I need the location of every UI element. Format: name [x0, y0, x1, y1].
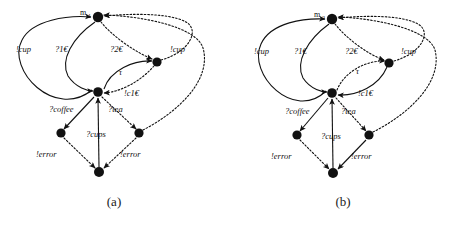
node-bottom	[328, 168, 338, 178]
label-start-state-sub-a: 1	[88, 13, 91, 19]
label-start-state-a: m	[80, 8, 87, 17]
edge-label-cups: ?cups	[321, 131, 342, 141]
edge-label-coffee: ?coffee	[49, 104, 74, 114]
graph-a: m 1 !cup ?1€ ?2€ !cup τ !c1€ ?coffee ?te…	[0, 0, 228, 200]
edge-coin1	[66, 22, 95, 91]
graph-b: m 2 !cup ?1€ ?2€ !cup τ !c1€ ?coffee ?te…	[229, 0, 457, 200]
edge-label-change1: !c1€	[358, 88, 374, 98]
caption-a: (a)	[0, 194, 228, 210]
edge-error-left	[64, 138, 95, 168]
edge-coin1	[301, 24, 329, 92]
edge-cup-left	[19, 17, 92, 100]
edge-label-error-left: !error	[36, 149, 57, 159]
edge-label-tea: ?tea	[108, 104, 123, 114]
edge-label-change1: !c1€	[124, 88, 140, 98]
node-right-upper	[384, 58, 393, 67]
edge-label-coin1: ?1€	[294, 46, 308, 56]
node-m2	[327, 14, 337, 24]
edge-label-cup-left: !cup	[16, 44, 31, 54]
edge-label-error-right: !error	[120, 149, 141, 159]
label-start-state-sub-b: 2	[322, 15, 325, 21]
node-right-lower	[364, 130, 373, 139]
node-right-lower	[134, 128, 143, 137]
panel-a: m 1 !cup ?1€ ?2€ !cup τ !c1€ ?coffee ?te…	[0, 0, 228, 227]
edge-label-cup-left: !cup	[254, 46, 269, 56]
caption-b: (b)	[229, 194, 457, 210]
node-m1	[93, 12, 103, 22]
edge-error-left	[300, 140, 329, 169]
label-start-state-b: m	[314, 10, 321, 19]
edge-label-tea: ?tea	[341, 106, 356, 116]
edge-label-coin2: ?2€	[110, 44, 124, 54]
node-left-lower	[292, 130, 301, 139]
node-bottom	[94, 167, 104, 177]
node-right-upper	[152, 57, 161, 66]
edge-tau	[337, 61, 385, 90]
edge-coin2	[101, 22, 152, 59]
edge-tau	[104, 61, 152, 89]
edge-label-error-left: !error	[271, 151, 292, 161]
node-center	[327, 88, 337, 98]
edge-label-cups: ?cups	[86, 129, 107, 139]
edge-label-tau: τ	[119, 68, 123, 77]
edge-label-coffee: ?coffee	[285, 106, 310, 116]
node-left-lower	[56, 128, 65, 137]
edge-coin2	[335, 24, 384, 60]
edge-label-cup-right: !cup	[170, 44, 185, 54]
edge-label-error-right: !error	[351, 151, 372, 161]
panel-b: m 2 !cup ?1€ ?2€ !cup τ !c1€ ?coffee ?te…	[229, 0, 457, 227]
edge-label-tau: τ	[356, 67, 360, 76]
node-center	[93, 87, 103, 97]
edge-label-coin1: ?1€	[55, 44, 69, 54]
edge-label-coin2: ?2€	[345, 46, 359, 56]
figure-root: m 1 !cup ?1€ ?2€ !cup τ !c1€ ?coffee ?te…	[0, 0, 457, 227]
edge-label-cup-right: !cup	[401, 46, 416, 56]
